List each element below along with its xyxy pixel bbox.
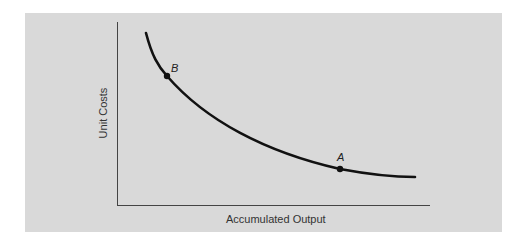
y-axis-label: Unit Costs [97,88,109,139]
experience-curve [146,33,415,177]
point-a-marker [337,166,343,172]
point-b-label: B [171,62,178,74]
point-a-label: A [337,151,344,163]
point-b-marker [164,73,170,79]
x-axis-label: Accumulated Output [226,213,326,225]
experience-curve-plot [0,0,525,246]
